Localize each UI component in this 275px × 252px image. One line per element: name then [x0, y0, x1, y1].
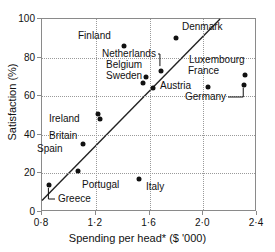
y-tick-mark — [37, 18, 41, 19]
point-label: Luxembourg — [189, 54, 245, 65]
scatter-chart: Satisfaction (%) Spending per head* ($ '… — [0, 0, 275, 252]
y-tick-mark — [37, 172, 41, 173]
y-tick-mark — [37, 57, 41, 58]
y-tick-label: 80 — [5, 51, 35, 62]
point-label: France — [188, 65, 219, 76]
point-label: Finland — [78, 30, 111, 41]
point-label: Italy — [146, 181, 164, 192]
point-label: Ireland — [49, 113, 80, 124]
point-label: Portugal — [82, 179, 119, 190]
y-tick-mark — [37, 95, 41, 96]
y-tick-label: 40 — [5, 128, 35, 139]
x-tick-label: 2·4 — [249, 217, 263, 228]
point-label: Sweden — [106, 70, 142, 81]
y-tick-mark — [37, 211, 41, 212]
y-axis-label: Satisfaction (%) — [6, 27, 18, 177]
x-tick-label: 1·2 — [88, 217, 102, 228]
x-axis-label: Spending per head* ($ '000) — [0, 232, 275, 244]
x-tick-mark — [256, 211, 257, 215]
y-tick-label: 60 — [5, 90, 35, 101]
y-tick-label: 20 — [5, 167, 35, 178]
point-label: Netherlands — [102, 48, 156, 59]
leader-line — [228, 88, 243, 97]
y-tick-mark — [37, 134, 41, 135]
x-tick-mark — [95, 211, 96, 215]
point-label: Germany — [185, 91, 226, 102]
point-label: Denmark — [182, 21, 223, 32]
x-tick-mark — [149, 211, 150, 215]
x-tick-label: 2·0 — [195, 217, 209, 228]
point-label: Spain — [37, 143, 63, 154]
x-tick-label: 0·8 — [34, 217, 48, 228]
point-label: Belgium — [106, 59, 142, 70]
leader-line — [48, 188, 55, 199]
y-tick-label: 0 — [5, 206, 35, 217]
point-label: Greece — [58, 193, 91, 204]
y-tick-label: 100 — [5, 13, 35, 24]
x-tick-label: 1·6 — [141, 217, 155, 228]
leader-line — [158, 54, 160, 66]
x-tick-mark — [41, 211, 42, 215]
point-label: Britain — [49, 130, 77, 141]
x-tick-mark — [202, 211, 203, 215]
point-label: Austria — [160, 80, 191, 91]
